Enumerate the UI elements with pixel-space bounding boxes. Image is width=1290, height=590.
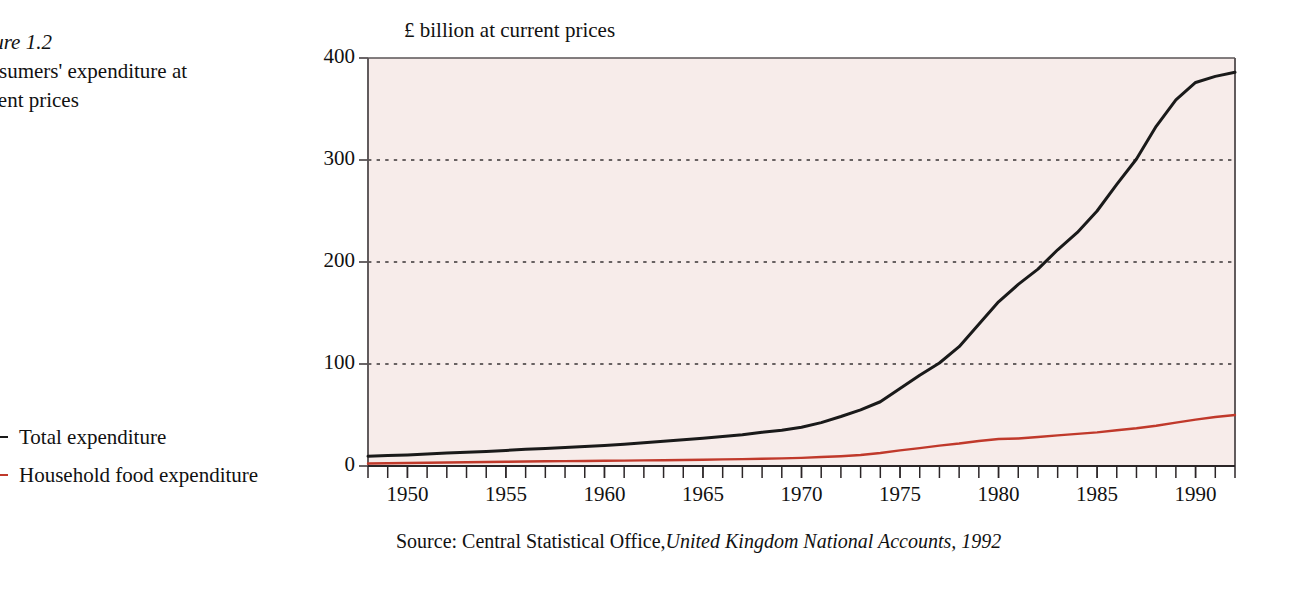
- x-tick-label: 1980: [964, 482, 1034, 507]
- legend-item-household-food-expenditure: Household food expenditure: [0, 456, 322, 494]
- x-tick-label: 1960: [569, 482, 639, 507]
- legend-item-total-expenditure: Total expenditure: [0, 418, 322, 456]
- source-publication: United Kingdom National Accounts, 1992: [666, 530, 1002, 552]
- x-tick-label: 1970: [767, 482, 837, 507]
- legend-label-household-food-expenditure: Household food expenditure: [19, 463, 258, 488]
- plot-area: 0100200300400 19501955196019651970197519…: [300, 18, 1260, 518]
- x-tick-label: 1975: [865, 482, 935, 507]
- figure-title-line-2: current prices: [0, 86, 294, 115]
- y-tick-label: 400: [297, 44, 355, 69]
- y-tick-label: 300: [297, 146, 355, 171]
- figure-title-line-1: Consumers' expenditure at: [0, 57, 294, 86]
- chart-figure: £ billion at current prices 010020030040…: [300, 18, 1260, 568]
- x-tick-label: 1985: [1062, 482, 1132, 507]
- chart-legend: Total expenditure Household food expendi…: [0, 418, 322, 494]
- x-tick-label: 1990: [1161, 482, 1231, 507]
- source-prefix: Source: Central Statistical Office,: [396, 530, 666, 552]
- figure-number: Figure 1.2: [0, 28, 294, 57]
- source-note: Source: Central Statistical Office,Unite…: [396, 530, 1001, 553]
- legend-label-total-expenditure: Total expenditure: [19, 425, 166, 450]
- legend-swatch-total-expenditure: [0, 436, 8, 438]
- x-tick-label: 1955: [471, 482, 541, 507]
- x-tick-label: 1950: [372, 482, 442, 507]
- y-tick-label: 200: [297, 248, 355, 273]
- y-tick-label: 100: [297, 350, 355, 375]
- figure-caption: Figure 1.2 Consumers' expenditure at cur…: [0, 28, 294, 115]
- legend-swatch-household-food-expenditure: [0, 474, 8, 476]
- line-chart-svg: [300, 18, 1260, 518]
- y-tick-label: 0: [297, 452, 355, 477]
- x-tick-label: 1965: [668, 482, 738, 507]
